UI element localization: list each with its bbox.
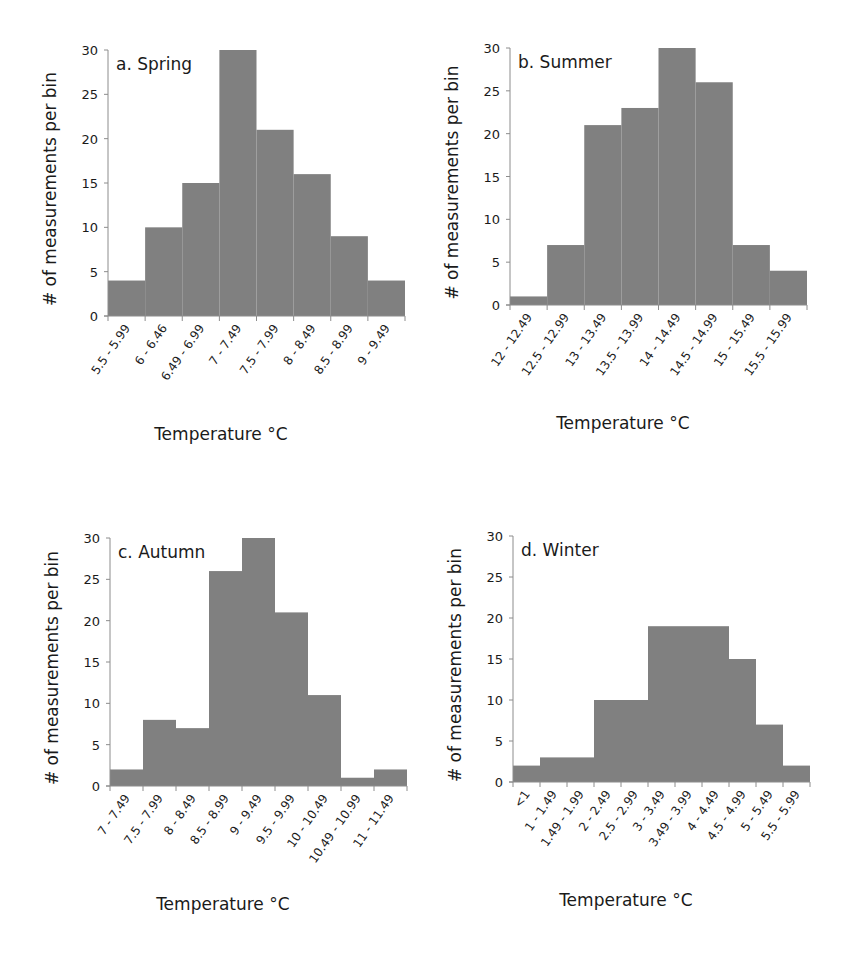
chart-winter: 051015202530<11 - 1.491.49 - 1.992 - 2.4… [422,470,844,969]
histogram-bar [143,720,176,786]
histogram-bar [696,82,733,305]
y-tick-label: 30 [81,43,98,58]
panel-title: a. Spring [116,54,192,74]
histogram-bar [584,125,621,305]
y-tick-label: 10 [486,693,503,708]
chart-spring: 0510152025305.5 - 5.996 - 6.466.49 - 6.9… [0,0,422,460]
histogram-bar [341,778,374,786]
histogram-bar [257,130,294,316]
y-tick-label: 0 [492,298,500,313]
histogram-bar [729,659,756,782]
y-tick-label: 25 [483,84,500,99]
histogram-bar [513,766,540,782]
histogram-bar [275,612,308,786]
histogram-bar [294,174,331,316]
histogram-bar [675,626,702,782]
histogram-bar [702,626,729,782]
histogram-bar [368,281,405,316]
histogram-bar [659,48,696,305]
y-tick-label: 5 [90,265,98,280]
histogram-bar [209,571,242,786]
histogram-bar [242,538,275,786]
x-axis-title: Temperature °C [153,424,287,444]
histogram-bar [145,227,182,316]
winter-histogram-svg: 051015202530<11 - 1.491.49 - 1.992 - 2.4… [422,470,844,969]
x-category-label: 5.5 - 5.99 [88,322,133,377]
y-tick-label: 30 [83,531,100,546]
chart-autumn: 0510152025307 - 7.497.5 - 7.998 - 8.498.… [0,470,422,969]
y-tick-label: 5 [492,255,500,270]
y-tick-label: 25 [83,572,100,587]
y-tick-label: 25 [486,570,503,585]
histogram-bar [621,108,658,305]
y-tick-label: 0 [495,775,503,790]
y-axis-title: # of measurements per bin [442,65,462,299]
y-tick-label: 25 [81,87,98,102]
histogram-bar [176,728,209,786]
histogram-bar [567,757,594,782]
panel-title: b. Summer [518,52,612,72]
summer-histogram-svg: 05101520253012 - 12.4912.5 - 12.9913 - 1… [422,0,844,460]
y-tick-label: 20 [81,132,98,147]
histogram-bar [756,725,783,782]
histogram-bar [331,236,368,316]
x-category-label: 6 - 6.46 [132,322,170,368]
y-tick-label: 10 [81,220,98,235]
histogram-bar [374,769,407,786]
histogram-bar [110,769,143,786]
x-category-label: 7 - 7.49 [206,322,244,368]
y-tick-label: 30 [483,41,500,56]
y-tick-label: 15 [483,170,500,185]
y-tick-label: 0 [90,309,98,324]
x-category-label: 8 - 8.49 [281,322,319,368]
chart-summer: 05101520253012 - 12.4912.5 - 12.9913 - 1… [422,0,844,460]
x-axis-title: Temperature °C [555,413,689,433]
histogram-bar [108,281,145,316]
y-tick-label: 15 [81,176,98,191]
y-axis-title: # of measurements per bin [40,72,60,306]
panel-title: d. Winter [521,540,599,560]
histogram-bar [540,757,567,782]
histogram-bar [770,271,807,305]
y-tick-label: 5 [495,734,503,749]
y-tick-label: 5 [92,738,100,753]
histogram-bar [783,766,810,782]
histogram-bar [219,50,256,316]
histogram-bar [594,700,621,782]
y-tick-label: 20 [83,614,100,629]
y-tick-label: 10 [83,696,100,711]
y-axis-title: # of measurements per bin [445,548,465,782]
histogram-bar [733,245,770,305]
x-category-label: <1 [511,788,533,811]
y-tick-label: 10 [483,212,500,227]
histogram-bar [182,183,219,316]
y-tick-label: 0 [92,779,100,794]
y-axis-title: # of measurements per bin [42,551,62,785]
y-tick-label: 30 [486,529,503,544]
autumn-histogram-svg: 0510152025307 - 7.497.5 - 7.998 - 8.498.… [0,470,422,969]
y-tick-label: 15 [486,652,503,667]
histogram-bar [308,695,341,786]
x-axis-title: Temperature °C [155,894,289,914]
x-axis-title: Temperature °C [558,890,692,910]
histogram-bar [547,245,584,305]
histogram-bar [621,700,648,782]
y-tick-label: 15 [83,655,100,670]
panel-title: c. Autumn [118,542,205,562]
spring-histogram-svg: 0510152025305.5 - 5.996 - 6.466.49 - 6.9… [0,0,422,460]
y-tick-label: 20 [483,127,500,142]
y-tick-label: 20 [486,611,503,626]
histogram-bar [648,626,675,782]
x-category-label: 9 - 9.49 [355,322,393,368]
histogram-bar [510,296,547,305]
